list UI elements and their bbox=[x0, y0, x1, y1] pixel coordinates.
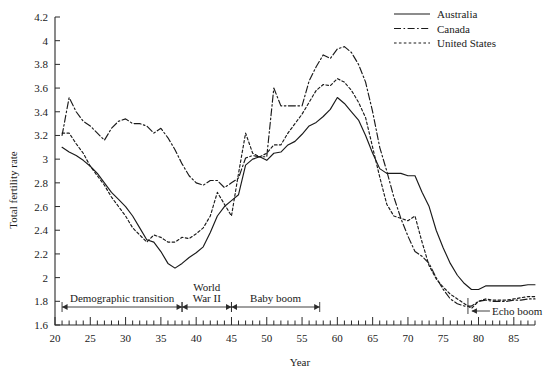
x-tick-label: 65 bbox=[367, 332, 379, 344]
y-tick-label: 1.8 bbox=[34, 295, 48, 307]
x-axis-ticks bbox=[55, 317, 535, 325]
x-tick-label: 45 bbox=[226, 332, 238, 344]
x-axis-title: Year bbox=[290, 356, 311, 368]
x-tick-label: 20 bbox=[50, 332, 62, 344]
x-tick-label: 35 bbox=[155, 332, 167, 344]
annotation-label: Demographic transition bbox=[70, 292, 175, 304]
x-tick-label: 50 bbox=[261, 332, 273, 344]
x-tick-label: 55 bbox=[297, 332, 309, 344]
y-tick-label: 2.8 bbox=[34, 177, 48, 189]
series-united-states bbox=[62, 79, 535, 309]
annotation-label: Echo boom bbox=[492, 305, 543, 317]
y-tick-label: 3.6 bbox=[34, 82, 48, 94]
series-australia bbox=[62, 98, 535, 290]
y-tick-label: 3.2 bbox=[34, 129, 48, 141]
x-tick-label: 40 bbox=[191, 332, 203, 344]
y-tick-label: 2.2 bbox=[34, 248, 48, 260]
x-axis-tick-labels: 2025303540455055606570758085 bbox=[50, 332, 520, 344]
chart-legend: AustraliaCanadaUnited States bbox=[394, 8, 496, 49]
x-tick-label: 75 bbox=[438, 332, 450, 344]
y-tick-label: 4 bbox=[43, 35, 49, 47]
y-tick-label: 4.2 bbox=[34, 11, 48, 23]
y-axis-ticks bbox=[55, 17, 60, 325]
annotation-label: War II bbox=[193, 292, 221, 304]
x-tick-label: 70 bbox=[402, 332, 414, 344]
series-canada bbox=[62, 47, 535, 306]
chart-container: 1.61.822.22.42.62.833.23.43.63.844.2 202… bbox=[0, 0, 551, 373]
annotation-label: Baby boom bbox=[250, 292, 301, 304]
y-tick-label: 3 bbox=[43, 153, 49, 165]
x-tick-label: 25 bbox=[85, 332, 97, 344]
chart-axes bbox=[55, 17, 535, 325]
x-tick-label: 85 bbox=[508, 332, 520, 344]
legend-label-australia: Australia bbox=[437, 8, 477, 20]
data-series-group bbox=[62, 47, 535, 309]
y-tick-label: 1.6 bbox=[34, 319, 48, 331]
x-tick-label: 80 bbox=[473, 332, 485, 344]
y-axis-tick-labels: 1.61.822.22.42.62.833.23.43.63.844.2 bbox=[34, 11, 48, 331]
y-tick-label: 2 bbox=[43, 272, 49, 284]
period-annotations: Demographic transitionWorldWar IIBaby bo… bbox=[62, 281, 543, 317]
y-tick-label: 2.4 bbox=[34, 224, 48, 236]
x-tick-label: 60 bbox=[332, 332, 344, 344]
y-tick-label: 3.4 bbox=[34, 106, 48, 118]
y-tick-label: 2.6 bbox=[34, 201, 48, 213]
legend-label-united-states: United States bbox=[437, 37, 496, 49]
legend-label-canada: Canada bbox=[437, 23, 470, 35]
x-tick-label: 30 bbox=[120, 332, 132, 344]
fertility-rate-line-chart: 1.61.822.22.42.62.833.23.43.63.844.2 202… bbox=[0, 0, 551, 373]
y-tick-label: 3.8 bbox=[34, 58, 48, 70]
y-axis-title: Total fertility rate bbox=[7, 151, 19, 229]
